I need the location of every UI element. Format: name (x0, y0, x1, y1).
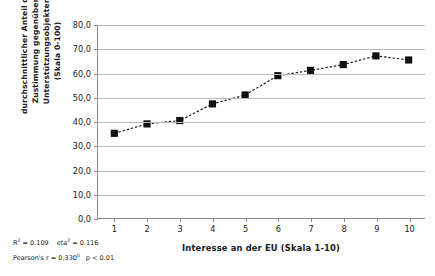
data-point-marker (372, 52, 379, 59)
y-tick-mark (94, 25, 98, 26)
x-tick-mark (311, 218, 312, 222)
x-tick-label: 2 (145, 224, 150, 234)
x-tick-mark (246, 218, 247, 222)
y-tick-mark (94, 146, 98, 147)
y-gridline (98, 146, 425, 147)
y-gridline (98, 25, 425, 26)
eta-value: = 0.116 (72, 239, 98, 247)
x-tick-mark (180, 218, 181, 222)
y-tick-mark (94, 219, 98, 220)
data-point-marker (340, 61, 347, 68)
y-gridline (98, 98, 425, 99)
y-gridline (98, 49, 425, 50)
chart-figure: durchschnittlicher Anteil der Zustimmung… (0, 0, 435, 276)
plot-area: 0,010,020,030,040,050,060,070,080,012345… (97, 25, 425, 219)
data-point-marker (209, 100, 216, 107)
pearson-footnote-marker: b (77, 253, 80, 258)
y-tick-label: 10,0 (73, 190, 91, 200)
y-tick-mark (94, 122, 98, 123)
stats-line-2: Pearson's r = 0,330bp < 0.01 (13, 250, 114, 265)
y-gridline (98, 171, 425, 172)
y-tick-mark (94, 195, 98, 196)
y-tick-label: 0,0 (78, 214, 91, 224)
x-tick-label: 8 (341, 224, 346, 234)
x-tick-label: 6 (276, 224, 281, 234)
y-tick-mark (94, 74, 98, 75)
x-tick-label: 4 (210, 224, 215, 234)
y-axis-title: durchschnittlicher Anteil der Zustimmung… (15, 0, 67, 149)
y-tick-label: 70,0 (73, 44, 91, 54)
y-tick-mark (94, 98, 98, 99)
x-tick-mark (213, 218, 214, 222)
eta-label: eta (57, 239, 68, 247)
data-point-marker (405, 56, 412, 63)
x-tick-label: 1 (112, 224, 117, 234)
y-tick-label: 80,0 (73, 20, 91, 30)
x-tick-label: 7 (309, 224, 314, 234)
stats-line-1: R2 = 0.109eta2 = 0.116 (13, 235, 114, 250)
r-squared-value: = 0.109 (23, 239, 49, 247)
statistics-footnote: R2 = 0.109eta2 = 0.116 Pearson's r = 0,3… (13, 235, 114, 264)
x-tick-mark (410, 218, 411, 222)
series-markers (111, 52, 412, 137)
y-gridline (98, 74, 425, 75)
y-tick-label: 60,0 (73, 69, 91, 79)
pearson-label: Pearson's r = 0,330 (13, 254, 77, 262)
x-tick-label: 9 (374, 224, 379, 234)
data-point-marker (111, 130, 118, 137)
data-point-marker (176, 117, 183, 124)
x-tick-label: 5 (243, 224, 248, 234)
r-squared-exponent: 2 (18, 238, 21, 243)
y-tick-label: 40,0 (73, 117, 91, 127)
p-value: p < 0.01 (86, 254, 114, 262)
x-tick-mark (147, 218, 148, 222)
y-tick-label: 50,0 (73, 93, 91, 103)
x-tick-label: 3 (177, 224, 182, 234)
y-tick-label: 20,0 (73, 166, 91, 176)
y-gridline (98, 122, 425, 123)
y-tick-mark (94, 171, 98, 172)
y-tick-mark (94, 49, 98, 50)
x-axis-title: Interesse an der EU (Skala 1-10) (97, 243, 425, 253)
x-tick-label: 10 (404, 224, 414, 234)
y-tick-label: 30,0 (73, 141, 91, 151)
x-tick-mark (344, 218, 345, 222)
x-tick-mark (278, 218, 279, 222)
y-gridline (98, 195, 425, 196)
eta-exponent: 2 (67, 238, 70, 243)
x-tick-mark (377, 218, 378, 222)
x-tick-mark (114, 218, 115, 222)
